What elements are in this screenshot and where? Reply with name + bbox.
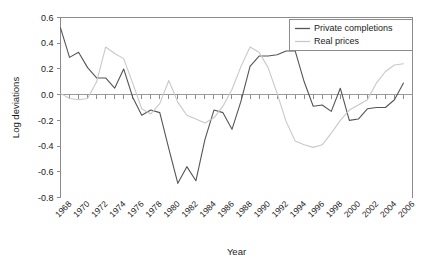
y-tick-label: 0.6 <box>41 13 54 23</box>
x-tick-label: 2000 <box>342 199 363 220</box>
x-tick-label: 1996 <box>306 199 327 220</box>
x-tick-label: 1980 <box>161 199 182 220</box>
x-tick-label: 1998 <box>324 199 345 220</box>
x-tick-label: 1972 <box>89 199 110 220</box>
x-tick-label: 1990 <box>252 199 273 220</box>
zero-axis-line <box>61 95 413 99</box>
chart-legend: Private completionsReal prices <box>289 20 412 51</box>
x-tick-label: 1978 <box>143 199 164 220</box>
x-tick-label: 1986 <box>215 199 236 220</box>
y-tick-label: -0.2 <box>38 116 54 126</box>
y-tick-label: 0.4 <box>41 38 54 48</box>
x-tick-label: 1982 <box>179 199 200 220</box>
x-tick-label: 2004 <box>378 199 399 220</box>
line-chart: 0.60.40.20.0-0.2-0.4-0.6-0.8 19681970197… <box>0 0 439 270</box>
y-tick-label: 0.2 <box>41 64 54 74</box>
x-tick-label: 1976 <box>125 199 146 220</box>
x-tick-label: 1994 <box>288 199 309 220</box>
y-tick-label: -0.4 <box>38 141 54 151</box>
x-tick-label: 1984 <box>197 199 218 220</box>
x-tick-label: 1968 <box>53 199 74 220</box>
legend-label: Real prices <box>314 36 360 46</box>
x-tick-label: 2002 <box>360 199 381 220</box>
x-tick-label: 1970 <box>71 199 92 220</box>
chart-figure: 0.60.40.20.0-0.2-0.4-0.6-0.8 19681970197… <box>0 0 439 270</box>
y-axis-title: Log deviations <box>10 77 21 139</box>
legend-label: Private completions <box>314 23 393 33</box>
x-tick-label: 1988 <box>234 199 255 220</box>
x-tick-label: 1992 <box>270 199 291 220</box>
y-tick-label: 0.0 <box>41 90 54 100</box>
x-tick-label: 1974 <box>107 199 128 220</box>
x-tick-label: 2006 <box>396 199 417 220</box>
x-axis-title: Year <box>227 246 246 257</box>
y-axis-tick-group: 0.60.40.20.0-0.2-0.4-0.6-0.8 <box>38 13 61 203</box>
data-series-group <box>61 28 404 184</box>
y-tick-label: -0.6 <box>38 167 54 177</box>
y-tick-label: -0.8 <box>38 193 54 203</box>
x-axis-tick-group: 1968197019721974197619781980198219841986… <box>53 199 417 220</box>
